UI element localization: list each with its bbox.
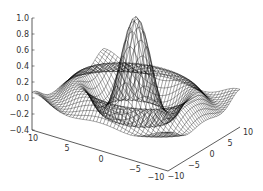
y-tick-label: −5 [188,161,200,170]
wireframe-mesh [32,17,240,138]
x-tick-label: −10 [148,173,165,182]
z-tick-label: 1.0 [16,14,29,23]
x-tick-label: 5 [64,144,69,153]
y-tick-label: −10 [168,172,185,181]
y-tick-label: 0 [209,150,214,159]
x-tick-label: 0 [98,155,103,164]
x-tick-label: −5 [129,165,141,174]
x-tick-label: 10 [28,134,38,143]
z-tick-label: 0.2 [16,78,29,87]
z-tick-label: 0.4 [16,62,29,71]
x-axis: 1050−5−10 [28,130,168,182]
y-tick-label: 5 [227,139,232,148]
z-tick-label: 0.8 [16,30,29,39]
y-tick-label: 10 [243,128,253,137]
z-tick-label: 0.6 [16,46,29,55]
z-tick-label: 0.0 [16,94,29,103]
mesh-lines [32,17,240,138]
surface-plot: 1.00.80.60.40.20.0−0.2−0.4 1050−5−10 −10… [0,0,263,191]
z-tick-label: −0.4 [10,126,29,135]
z-tick-label: −0.2 [10,110,29,119]
z-axis: 1.00.80.60.40.20.0−0.2−0.4 [10,14,35,135]
